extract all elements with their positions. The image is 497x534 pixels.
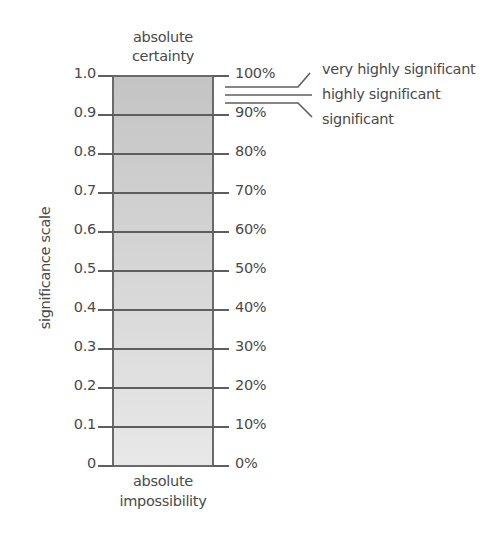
annotation-very-highly-significant: very highly significant [322,61,475,77]
annotation-highly-significant: highly significant [322,86,440,102]
annotation-lines [0,0,497,534]
annotation-significant: significant [322,111,394,127]
